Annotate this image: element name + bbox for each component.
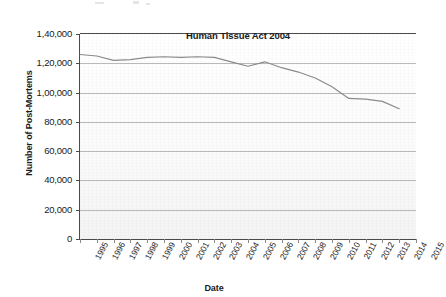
y-tick-label: 20,000: [44, 205, 72, 215]
x-tick-label: 1997: [127, 241, 143, 261]
x-tick-label: 2012: [379, 241, 395, 261]
x-tick-label: 2000: [178, 241, 194, 261]
x-axis-title: Date: [0, 283, 428, 293]
x-tick-label: 2009: [329, 241, 345, 261]
x-tick-label: 2010: [346, 241, 362, 261]
x-tick-label: 2004: [245, 241, 261, 261]
plot-area: [79, 34, 416, 240]
y-tick-label: 80,000: [44, 117, 72, 127]
scan-artifact: [95, 2, 104, 4]
data-series-line: [80, 34, 416, 239]
scan-artifact: [133, 1, 139, 4]
y-tick-label: 1,00,000: [37, 88, 72, 98]
y-tick-label: 1,40,000: [37, 29, 72, 39]
x-tick-label: 2013: [396, 241, 412, 261]
x-tick-label: 2002: [211, 241, 227, 261]
x-axis-tick-labels: 1995199619971998199920002001200220032004…: [79, 241, 415, 283]
y-tick-label: 40,000: [44, 175, 72, 185]
scan-artifact: [146, 3, 150, 5]
x-tick-label: 2008: [312, 241, 328, 261]
x-tick-label: 2014: [413, 241, 429, 261]
y-tick-label: 1,20,000: [37, 58, 72, 68]
x-tick-label: 1999: [161, 241, 177, 261]
x-tick-label: 2006: [278, 241, 294, 261]
x-tick-label: 1995: [94, 241, 110, 261]
x-tick-label: 2015: [430, 241, 446, 261]
y-tick-label: 60,000: [44, 146, 72, 156]
x-tick-label: 2011: [362, 241, 378, 261]
y-axis-tick-labels: 020,00040,00060,00080,0001,00,0001,20,00…: [0, 0, 76, 297]
x-tick-label: 2007: [295, 241, 311, 261]
x-tickmark: [416, 239, 417, 243]
x-tick-label: 2001: [194, 241, 210, 261]
x-tick-label: 2003: [228, 241, 244, 261]
annotation-human-tissue-act: Human Tissue Act 2004: [186, 30, 290, 41]
x-tick-label: 2005: [262, 241, 278, 261]
y-tick-label: 0: [67, 234, 72, 244]
x-tick-label: 1996: [110, 241, 126, 261]
x-tick-label: 1998: [144, 241, 160, 261]
